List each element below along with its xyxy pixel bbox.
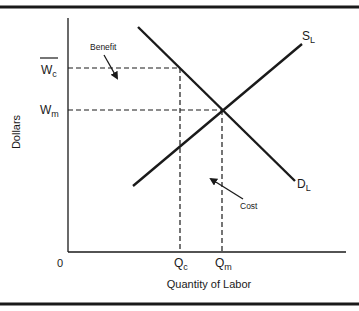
origin-label: 0 [57,257,63,269]
wm-label: Wm [40,103,59,119]
benefit-label: Benefit [90,42,117,52]
demand-curve [138,27,295,181]
wc-label: Wc [41,63,57,79]
x-axis-title: Quantity of Labor [167,278,252,290]
labor-market-diagram: Benefit Cost Wc Wm 0 Qc Qm SL DL Quantit… [0,0,359,311]
y-axis-title: Dollars [10,114,22,149]
demand-curve-label: DL [297,177,311,193]
qm-label: Qm [215,256,232,272]
supply-curve [133,44,302,186]
benefit-arrow-icon [104,55,117,78]
supply-curve-label: SL [302,29,315,45]
cost-arrow-icon [211,179,243,199]
cost-label: Cost [240,201,258,211]
qc-label: Qc [174,256,188,272]
